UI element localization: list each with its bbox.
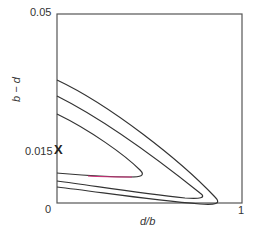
y-tick-top: 0.05: [30, 6, 51, 18]
contour-outer: [57, 80, 218, 204]
x-tick-one: 1: [238, 204, 244, 216]
y-axis-label: b − d: [10, 77, 22, 102]
y-tick-mid: 0.015: [25, 145, 53, 157]
x-marker: X: [54, 142, 63, 157]
contour-middle: [57, 96, 203, 198]
contour-plot: [0, 0, 254, 233]
x-axis-label: d/b: [140, 215, 155, 227]
contour-inner: [57, 114, 142, 177]
y-tick-zero: 0: [45, 203, 51, 215]
